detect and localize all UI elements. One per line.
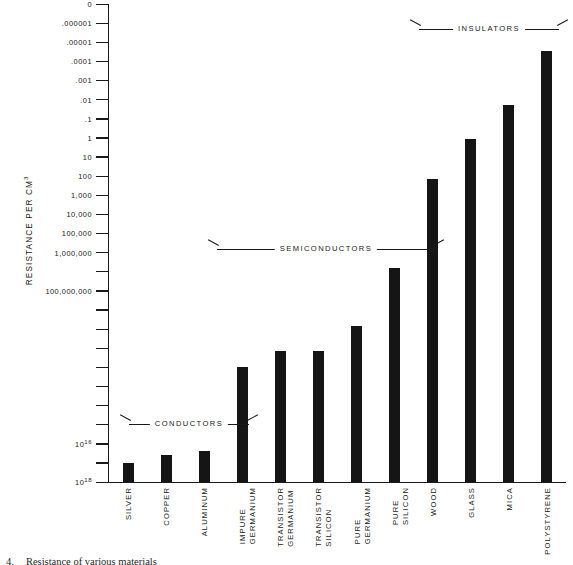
y-tick-label: .001 bbox=[76, 76, 92, 85]
bar-wood bbox=[427, 179, 438, 482]
category-label-line-1: POLYSTYRENE bbox=[543, 487, 552, 555]
caption-text: Resistance of various materials bbox=[26, 556, 157, 565]
bar-pure-germanium bbox=[351, 326, 362, 482]
category-label-line-1: COPPER bbox=[162, 487, 171, 526]
bar-copper bbox=[161, 455, 172, 482]
y-tick-label: 1018 bbox=[75, 477, 92, 487]
x-category-label-mica: MICA bbox=[505, 487, 515, 510]
x-category-label-pure-silicon: PURESILICON bbox=[391, 487, 410, 525]
y-tick-label: 100 bbox=[78, 172, 92, 181]
x-category-label-group: SILVERCOPPERALUMINUMIMPUREGERMANIUMTRANS… bbox=[109, 487, 566, 565]
bar-mica bbox=[503, 105, 514, 482]
y-tick-exponent: 16 bbox=[84, 439, 92, 445]
y-tick-label: .1 bbox=[85, 114, 92, 123]
category-label-line-1: TRANSISTOR bbox=[314, 487, 323, 547]
category-label-line-2: GERMANIUM bbox=[362, 487, 372, 544]
x-category-label-glass: GLASS bbox=[467, 487, 477, 518]
category-label-line-1: TRANSISTOR bbox=[276, 487, 285, 547]
category-label-line-1: MICA bbox=[505, 487, 514, 510]
x-category-label-transistor-silicon: TRANSISTORSILICON bbox=[314, 487, 333, 547]
y-tick-label-group: 10181016100,000,0001,000,000100,00010,00… bbox=[0, 4, 109, 483]
y-tick-label: 100,000,000 bbox=[45, 286, 92, 295]
bar-glass bbox=[465, 139, 476, 482]
y-tick-label: 1016 bbox=[75, 439, 92, 449]
y-tick-label: .01 bbox=[80, 95, 92, 104]
bar-series: CONDUCTORSSEMICONDUCTORSINSULATORS bbox=[109, 4, 566, 483]
category-label-line-1: PURE bbox=[353, 519, 362, 545]
group-bracket-tip-right bbox=[557, 19, 572, 33]
category-label-line-2: SILICON bbox=[400, 487, 410, 525]
y-tick-label: 1,000 bbox=[71, 191, 92, 200]
y-tick-label: 10,000 bbox=[66, 210, 92, 219]
y-tick-label: 100,000 bbox=[62, 229, 92, 238]
x-category-label-wood: WOOD bbox=[429, 487, 439, 516]
category-label-line-1: PURE bbox=[391, 500, 400, 526]
group-bracket-label: SEMICONDUCTORS bbox=[275, 244, 377, 253]
category-label-line-1: IMPURE bbox=[238, 508, 247, 544]
bar-aluminum bbox=[199, 451, 210, 482]
bar-transistor-silicon bbox=[313, 351, 324, 482]
group-bracket-tip-left bbox=[204, 239, 219, 253]
y-tick-label: 10 bbox=[83, 152, 92, 161]
category-label-line-1: WOOD bbox=[429, 487, 438, 516]
category-label-line-2: SILICON bbox=[324, 487, 334, 547]
group-bracket-label: INSULATORS bbox=[453, 24, 525, 33]
x-category-label-aluminum: ALUMINUM bbox=[200, 487, 210, 536]
y-tick-label: 1,000,000 bbox=[55, 248, 92, 257]
y-tick-label: .000001 bbox=[62, 19, 92, 28]
category-label-line-2: GERMANIUM bbox=[248, 487, 258, 544]
chart-figure: RESISTANCE PER CM3 10181016100,000,0001,… bbox=[0, 0, 573, 565]
bar-silver bbox=[123, 463, 134, 482]
category-label-line-1: GLASS bbox=[467, 487, 476, 518]
bar-transistor-germanium bbox=[275, 351, 286, 482]
bar-pure-silicon bbox=[389, 268, 400, 482]
caption-number: 4. bbox=[6, 556, 14, 565]
bar-polystyrene bbox=[541, 51, 552, 482]
y-tick-exponent: 18 bbox=[84, 477, 92, 483]
y-tick-label: 1 bbox=[87, 133, 92, 142]
x-category-label-silver: SILVER bbox=[124, 487, 134, 520]
x-category-label-transistor-germanium: TRANSISTORGERMANIUM bbox=[276, 487, 295, 547]
group-bracket-insulators: INSULATORS bbox=[409, 24, 569, 46]
x-category-label-polystyrene: POLYSTYRENE bbox=[543, 487, 553, 555]
group-bracket-conductors: CONDUCTORS bbox=[119, 419, 259, 441]
group-bracket-semiconductors: SEMICONDUCTORS bbox=[207, 244, 445, 266]
x-category-label-impure-germanium: IMPUREGERMANIUM bbox=[238, 487, 257, 544]
x-category-label-pure-germanium: PUREGERMANIUM bbox=[353, 487, 372, 544]
y-tick-label: 0 bbox=[87, 0, 92, 9]
y-tick-label: .0001 bbox=[71, 57, 92, 66]
x-category-label-copper: COPPER bbox=[162, 487, 172, 526]
category-label-line-1: SILVER bbox=[124, 487, 133, 520]
group-bracket-tip-left bbox=[116, 414, 131, 428]
category-label-line-1: ALUMINUM bbox=[200, 487, 209, 536]
group-bracket-tip-left bbox=[406, 19, 421, 33]
category-label-line-2: GERMANIUM bbox=[286, 487, 296, 547]
y-tick-mark-group bbox=[95, 4, 109, 483]
group-bracket-label: CONDUCTORS bbox=[150, 419, 228, 428]
group-bracket-tip-right bbox=[247, 414, 262, 428]
y-tick-label: .00001 bbox=[66, 38, 92, 47]
figure-caption: 4.Resistance of various materials bbox=[6, 556, 157, 565]
